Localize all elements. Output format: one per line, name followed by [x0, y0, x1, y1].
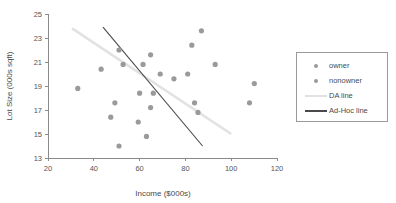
- data-point: [144, 134, 149, 139]
- data-point: [189, 43, 194, 48]
- chart-legend: ownernonownerDA lineAd-Hoc line: [296, 52, 388, 122]
- fit-lines-group: [72, 27, 231, 146]
- fit-line: [72, 28, 231, 134]
- data-point: [136, 119, 141, 124]
- y-tick-label: 25: [34, 10, 42, 19]
- data-point: [195, 110, 200, 115]
- y-axis-title: Lot Size (000s sqft): [5, 51, 14, 120]
- data-point: [112, 100, 117, 105]
- legend-item[interactable]: nonowner: [297, 73, 387, 88]
- legend-item[interactable]: Ad-Hoc line: [297, 103, 387, 118]
- legend-line-key: [303, 95, 329, 97]
- x-tick-label: 120: [271, 164, 284, 173]
- y-axis-ticks: 13151719212325: [34, 10, 48, 163]
- data-point: [171, 76, 176, 81]
- scatter-plot-figure: 13151719212325 20406080100120 Income ($0…: [0, 0, 396, 203]
- data-point: [213, 62, 218, 67]
- data-point: [192, 100, 197, 105]
- chart-canvas: 13151719212325 20406080100120 Income ($0…: [0, 0, 290, 203]
- legend-line-icon: [305, 110, 327, 112]
- x-tick-label: 40: [90, 164, 98, 173]
- x-tick-label: 60: [135, 164, 143, 173]
- data-points-group: [75, 28, 257, 148]
- y-tick-label: 15: [34, 130, 42, 139]
- y-tick-label: 13: [34, 154, 42, 163]
- x-tick-label: 100: [225, 164, 238, 173]
- x-tick-label: 80: [181, 164, 189, 173]
- legend-item[interactable]: owner: [297, 58, 387, 73]
- data-point: [140, 62, 145, 67]
- data-point: [199, 28, 204, 33]
- data-point: [116, 143, 121, 148]
- data-point: [252, 81, 257, 86]
- data-point: [158, 71, 163, 76]
- y-tick-label: 23: [34, 34, 42, 43]
- data-point: [151, 91, 156, 96]
- fit-line: [103, 27, 203, 146]
- data-point: [116, 47, 121, 52]
- legend-item-label: DA line: [329, 91, 353, 101]
- x-tick-label: 20: [44, 164, 52, 173]
- data-point: [99, 67, 104, 72]
- data-point: [185, 71, 190, 76]
- y-tick-label: 17: [34, 106, 42, 115]
- data-point: [247, 100, 252, 105]
- data-point: [137, 91, 142, 96]
- x-axis-ticks: 20406080100120: [44, 158, 283, 173]
- legend-item[interactable]: DA line: [297, 88, 387, 103]
- data-point: [148, 52, 153, 57]
- legend-item-label: Ad-Hoc line: [329, 106, 368, 116]
- legend-item-label: nonowner: [329, 76, 362, 86]
- y-tick-label: 19: [34, 82, 42, 91]
- legend-marker-key: [303, 64, 329, 68]
- data-point: [75, 86, 80, 91]
- legend-line-key: [303, 110, 329, 112]
- legend-line-icon: [305, 95, 327, 97]
- legend-marker-icon: [314, 79, 318, 83]
- data-point: [121, 62, 126, 67]
- legend-marker-icon: [314, 64, 318, 68]
- y-tick-label: 21: [34, 58, 42, 67]
- legend-marker-key: [303, 79, 329, 83]
- x-axis-title: Income ($000s): [135, 189, 191, 198]
- chart-panel: 13151719212325 20406080100120 Income ($0…: [0, 0, 290, 203]
- data-point: [108, 115, 113, 120]
- legend-item-label: owner: [329, 61, 349, 71]
- data-point: [148, 105, 153, 110]
